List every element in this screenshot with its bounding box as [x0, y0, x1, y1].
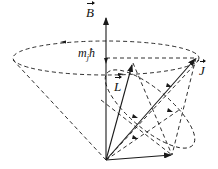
- cone-left-edge: [13, 60, 106, 160]
- s-vector: [106, 155, 171, 160]
- label-mj-hbar: mjħ: [78, 47, 95, 59]
- angular-momentum-diagram: B mjħ J L: [0, 0, 218, 169]
- label-j: J: [199, 64, 205, 77]
- label-j-text: J: [199, 64, 205, 77]
- parallelogram-j-to-s: [172, 58, 196, 155]
- parallelogram-l-to-j: [133, 63, 172, 155]
- label-hbar: ħ: [89, 46, 95, 60]
- parallelogram-extra: [101, 100, 172, 155]
- label-l: L: [114, 80, 121, 93]
- direction-arrow-icon: [166, 83, 172, 87]
- label-b: B: [86, 6, 94, 19]
- direction-arrow-icon: [104, 58, 108, 64]
- direction-arrow-icon: [132, 135, 138, 139]
- label-j-sub: j: [87, 53, 89, 62]
- label-l-text: L: [114, 80, 121, 93]
- diagram-canvas: [0, 0, 218, 169]
- parallelogram-o-to-far: [106, 108, 182, 160]
- direction-arrow-icon: [167, 108, 173, 112]
- label-b-text: B: [86, 6, 94, 19]
- label-m: m: [78, 46, 87, 60]
- precession-ellipse-l-s: [94, 58, 206, 161]
- direction-arrow-icon: [132, 114, 138, 118]
